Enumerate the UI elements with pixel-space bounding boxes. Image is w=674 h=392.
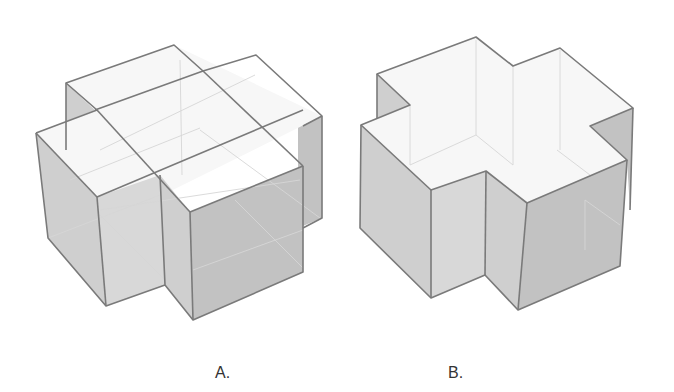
- shape-a: [36, 45, 322, 320]
- option-b-label: B.: [448, 364, 463, 382]
- option-a-label: A.: [215, 364, 230, 382]
- shape-b: [360, 37, 633, 310]
- figure-canvas: [0, 0, 674, 392]
